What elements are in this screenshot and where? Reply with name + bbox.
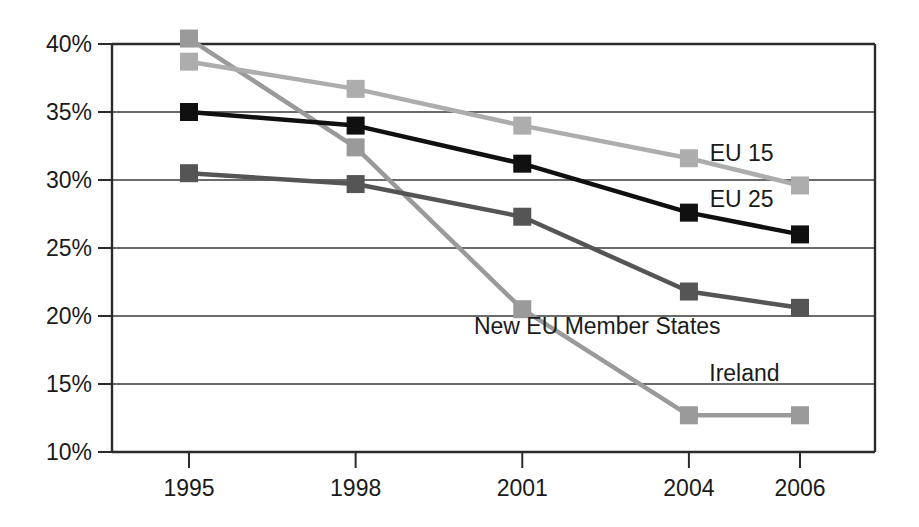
series-marker [680, 406, 698, 424]
x-tick-label: 2001 [497, 475, 548, 501]
chart-page: 40%35%30%25%20%15%10% 199519982001200420… [0, 0, 919, 527]
series-marker [180, 164, 198, 182]
series-marker [791, 406, 809, 424]
series-label: New EU Member States [474, 313, 721, 339]
y-tick-label: 10% [46, 439, 92, 465]
series-label: Ireland [709, 360, 779, 386]
y-tick-label: 35% [46, 99, 92, 125]
series-marker [791, 176, 809, 194]
series-marker [180, 30, 198, 48]
series-marker [791, 225, 809, 243]
series-marker [680, 283, 698, 301]
series-line [189, 39, 800, 416]
series-marker [680, 204, 698, 222]
series-line [189, 173, 800, 308]
y-tick-label: 40% [46, 31, 92, 57]
series-marker [680, 149, 698, 167]
series-label: EU 15 [710, 140, 774, 166]
x-tick-label: 1998 [330, 475, 381, 501]
series-marker [180, 103, 198, 121]
series-marker [347, 138, 365, 156]
x-tick-label: 1995 [163, 475, 214, 501]
y-tick-label: 25% [46, 235, 92, 261]
series-marker [791, 299, 809, 317]
x-axis-ticks: 19951998200120042006 [163, 452, 825, 501]
y-axis-ticks: 40%35%30%25%20%15%10% [46, 31, 112, 465]
series-marker [513, 208, 531, 226]
series-marker [347, 80, 365, 98]
x-tick-label: 2004 [663, 475, 714, 501]
y-tick-label: 30% [46, 167, 92, 193]
series-line [189, 62, 800, 186]
series-label: EU 25 [710, 186, 774, 212]
gridlines [112, 44, 875, 452]
series-marker [347, 175, 365, 193]
x-tick-label: 2006 [774, 475, 825, 501]
series-marker [513, 117, 531, 135]
series-marker [180, 53, 198, 71]
series-line [189, 112, 800, 234]
line-chart: 40%35%30%25%20%15%10% 199519982001200420… [0, 0, 919, 527]
y-tick-label: 15% [46, 371, 92, 397]
series-marker [513, 155, 531, 173]
y-tick-label: 20% [46, 303, 92, 329]
series-marker [347, 117, 365, 135]
